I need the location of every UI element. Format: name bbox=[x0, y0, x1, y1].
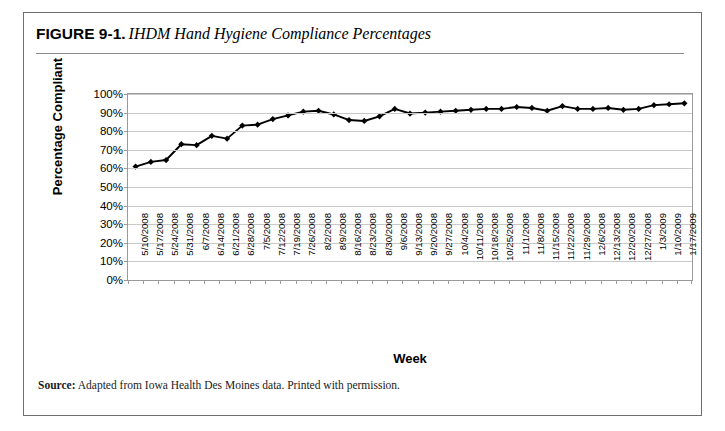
data-point-marker bbox=[498, 106, 504, 112]
x-axis-tick-label: 7/12/2008 bbox=[276, 213, 287, 285]
y-axis-tick-label: 50% bbox=[81, 181, 123, 193]
x-axis-tick-label: 6/14/2008 bbox=[215, 213, 226, 285]
data-point-marker bbox=[361, 118, 367, 124]
gridline bbox=[128, 131, 692, 132]
x-axis-tick-label: 5/17/2008 bbox=[154, 213, 165, 285]
x-axis-tick-label: 12/13/2008 bbox=[611, 213, 622, 285]
y-axis-tick-label: 0% bbox=[81, 274, 123, 286]
x-axis-tick-label: 8/16/2008 bbox=[352, 213, 363, 285]
figure-caption: FIGURE 9-1.IHDM Hand Hygiene Compliance … bbox=[36, 23, 686, 45]
y-axis-tick-label: 60% bbox=[81, 162, 123, 174]
data-point-marker bbox=[392, 106, 398, 112]
gridline bbox=[128, 113, 692, 114]
x-axis-tick-label: 11/29/2008 bbox=[581, 213, 592, 285]
x-axis-tick-label: 8/23/2008 bbox=[367, 213, 378, 285]
y-axis-tick-label: 20% bbox=[81, 237, 123, 249]
x-axis-tick-label: 6/7/2008 bbox=[200, 213, 211, 285]
data-point-marker bbox=[346, 117, 352, 123]
data-point-marker bbox=[376, 113, 382, 119]
x-axis-tick-label: 10/4/2008 bbox=[459, 213, 470, 285]
x-axis-tick-label: 8/30/2008 bbox=[383, 213, 394, 285]
gridline bbox=[128, 224, 692, 225]
x-axis-tick-label: 9/20/2008 bbox=[428, 213, 439, 285]
data-point-marker bbox=[529, 105, 535, 111]
data-point-marker bbox=[666, 101, 672, 107]
y-axis-title: Percentage Compliant bbox=[50, 42, 65, 212]
gridline bbox=[128, 168, 692, 169]
x-axis-tick-label: 8/9/2008 bbox=[337, 213, 348, 285]
x-axis-tick-label: 5/31/2008 bbox=[184, 213, 195, 285]
gridline bbox=[128, 94, 692, 95]
x-axis-tick-label: 11/22/2008 bbox=[565, 213, 576, 285]
data-point-marker bbox=[148, 159, 154, 165]
y-axis-tick-label: 10% bbox=[81, 255, 123, 267]
plot-area bbox=[127, 93, 693, 281]
figure-title: IHDM Hand Hygiene Compliance Percentages bbox=[126, 25, 431, 42]
x-axis-tick-label: 9/27/2008 bbox=[443, 213, 454, 285]
x-axis-tick-label: 12/27/2008 bbox=[642, 213, 653, 285]
x-axis-tick-label: 9/13/2008 bbox=[413, 213, 424, 285]
x-axis-tick-label: 11/1/2008 bbox=[520, 213, 531, 285]
y-axis-tick-label: 70% bbox=[81, 144, 123, 156]
gridline bbox=[128, 187, 692, 188]
x-axis-tick-label: 10/18/2008 bbox=[489, 213, 500, 285]
x-axis-tick-label: 6/28/2008 bbox=[245, 213, 256, 285]
y-axis-tick-label: 40% bbox=[81, 200, 123, 212]
x-axis-tick-label: 12/6/2008 bbox=[596, 213, 607, 285]
data-point-marker bbox=[681, 100, 687, 106]
x-axis-tick-label: 11/15/2008 bbox=[550, 213, 561, 285]
x-axis-tick-label: 1/10/2009 bbox=[672, 213, 683, 285]
x-axis-tick-label: 7/26/2008 bbox=[306, 213, 317, 285]
gridline bbox=[128, 206, 692, 207]
y-axis-tick-label: 80% bbox=[81, 125, 123, 137]
source-text: Adapted from Iowa Health Des Moines data… bbox=[78, 379, 400, 391]
x-axis-tick-label: 5/10/2008 bbox=[139, 213, 150, 285]
x-axis-tick-label: 9/6/2008 bbox=[398, 213, 409, 285]
x-axis-tick-label: 10/11/2008 bbox=[474, 213, 485, 285]
line-chart: Percentage Compliant 100%90%80%70%60%50%… bbox=[24, 59, 703, 379]
x-axis-tick bbox=[128, 280, 129, 284]
data-point-marker bbox=[575, 106, 581, 112]
figure-header: FIGURE 9-1.IHDM Hand Hygiene Compliance … bbox=[36, 23, 686, 57]
x-axis-tick-label: 12/20/2008 bbox=[626, 213, 637, 285]
y-axis-tick-label: 90% bbox=[81, 107, 123, 119]
source-label: Source: bbox=[38, 379, 75, 391]
x-axis-tick-label: 1/3/2009 bbox=[657, 213, 668, 285]
figure-number: FIGURE 9-1. bbox=[36, 25, 126, 42]
x-axis-tick-label: 6/21/2008 bbox=[230, 213, 241, 285]
y-axis-tick-label: 30% bbox=[81, 218, 123, 230]
gridline bbox=[128, 243, 692, 244]
x-axis-tick-label: 5/24/2008 bbox=[169, 213, 180, 285]
data-point-marker bbox=[605, 105, 611, 111]
data-point-marker bbox=[559, 103, 565, 109]
data-point-marker bbox=[514, 104, 520, 110]
data-point-marker bbox=[270, 116, 276, 122]
gridline bbox=[128, 261, 692, 262]
data-point-marker bbox=[590, 106, 596, 112]
x-axis-tick-label: 1/17/2009 bbox=[687, 213, 698, 285]
header-divider bbox=[36, 53, 684, 54]
y-axis-tick-label: 100% bbox=[81, 88, 123, 100]
data-point-marker bbox=[483, 106, 489, 112]
source-note: Source: Adapted from Iowa Health Des Moi… bbox=[38, 379, 400, 391]
gridline bbox=[128, 150, 692, 151]
data-point-marker bbox=[651, 102, 657, 108]
x-axis-tick-label: 8/2/2008 bbox=[322, 213, 333, 285]
x-axis-tick-label: 10/25/2008 bbox=[504, 213, 515, 285]
data-point-marker bbox=[636, 106, 642, 112]
x-axis-tick-label: 11/8/2008 bbox=[535, 213, 546, 285]
y-axis-labels: 100%90%80%70%60%50%40%30%20%10%0% bbox=[77, 93, 123, 281]
figure-container: FIGURE 9-1.IHDM Hand Hygiene Compliance … bbox=[23, 12, 702, 416]
x-axis-tick-label: 7/19/2008 bbox=[291, 213, 302, 285]
x-axis-tick-label: 7/5/2008 bbox=[261, 213, 272, 285]
x-axis-title: Week bbox=[127, 351, 693, 366]
data-point-marker bbox=[254, 122, 260, 128]
